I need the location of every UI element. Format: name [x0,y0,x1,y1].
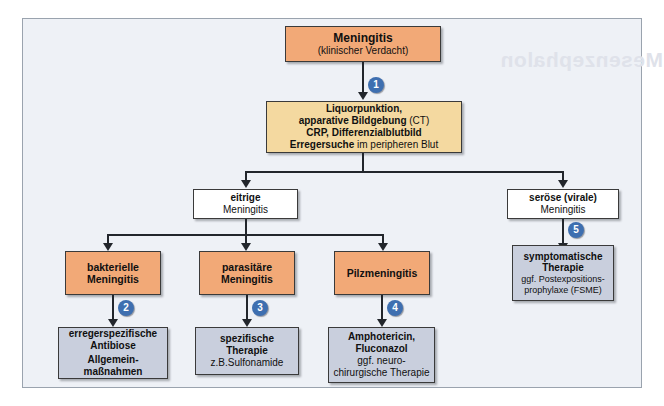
box-diagnostik-line-2: apparative Bildgebung (CT) [299,115,430,127]
connector-parasitaere-spezifische [246,295,248,321]
box-bakterielle-title: bakterielle [87,261,139,273]
arrowhead-eitrige [241,180,251,188]
box-eitrige-subtitle: Meningitis [223,204,268,216]
badge-4[interactable]: 4 [387,300,403,316]
box-parasitaere-subtitle: Meningitis [221,273,273,285]
badge-3[interactable]: 3 [252,300,268,316]
arrowhead-diagnostik [358,92,368,100]
box-bakterielle-subtitle: Meningitis [87,273,139,285]
box-erregerspezifische-antibiose[interactable]: erregerspezifische Antibiose Allgemein- … [58,327,168,379]
box-parasitaere-meningitis[interactable]: parasitäre Meningitis [199,251,295,295]
box-antibiose-title-3: Allgemein- [87,354,138,366]
box-symptomatische-sub-1: ggf. Postexpositions- [521,274,605,285]
arrowhead-antimykotika [377,319,387,327]
connector-eitrige-stem [245,219,247,234]
box-antimykotika-title-1: Amphotericin, [348,331,415,343]
box-diagnostik[interactable]: Liquorpunktion, apparative Bildgebung (C… [266,101,462,153]
diagram-frame: Mesenzephalon Meningitis (klinischer Ver… [22,18,642,388]
connector-meningitis-diagnostik [362,62,364,94]
box-eitrige-meningitis[interactable]: eitrige Meningitis [193,189,298,219]
box-antibiose-title-1: erregerspezifische [69,328,157,340]
box-spezifische-sub-1: z.B.Sulfonamide [211,357,284,369]
diagram-page: Mesenzephalon Meningitis (klinischer Ver… [0,0,664,406]
box-antimykotika-sub-2: chirurgische Therapie [334,367,430,379]
box-symptomatische-title-1: symptomatische [524,251,603,263]
box-symptomatische-sub-2: prophylaxe (FSME) [524,285,602,296]
box-seroese-title: seröse (virale) [529,192,597,204]
arrowhead-seroese [558,180,568,188]
box-eitrige-title: eitrige [230,192,260,204]
connector-bakterielle-antibiose [112,295,114,321]
box-symptomatische-title-2: Therapie [542,262,584,274]
box-pilz-title: Pilzmeningitis [347,267,418,279]
box-diagnostik-line-3: CRP, Differenzialblutbild [306,127,421,139]
box-seroese-subtitle: Meningitis [540,204,585,216]
connector-pilz-antimykotika [381,295,383,321]
box-parasitaere-title: parasitäre [222,261,272,273]
box-meningitis-title: Meningitis [333,31,392,45]
badge-2[interactable]: 2 [118,300,134,316]
arrowhead-bakterielle [103,243,113,251]
arrowhead-pilz [378,243,388,251]
connector-seroese-symptomatische [562,219,564,245]
box-antimykotika-sub-1: ggf. neuro- [357,355,405,367]
box-spezifische-title-1: spezifische [220,333,274,345]
box-spezifische-therapie[interactable]: spezifische Therapie z.B.Sulfonamide [195,327,299,375]
bleed-through-watermark: Mesenzephalon [453,43,663,77]
box-meningitis[interactable]: Meningitis (klinischer Verdacht) [285,26,441,62]
connector-split-bar-top [245,171,564,173]
box-diagnostik-line-4: Erregersuche im peripheren Blut [290,139,438,151]
box-antimykotika-title-2: Fluconazol [355,343,407,355]
box-meningitis-subtitle: (klinischer Verdacht) [318,45,409,57]
box-spezifische-title-2: Therapie [226,345,268,357]
box-seroese-meningitis[interactable]: seröse (virale) Meningitis [507,189,619,219]
badge-5[interactable]: 5 [568,222,584,238]
arrowhead-spezifische [242,319,252,327]
box-antimykotische-therapie[interactable]: Amphotericin, Fluconazol ggf. neuro- chi… [328,327,435,383]
arrowhead-parasitaere [241,243,251,251]
box-bakterielle-meningitis[interactable]: bakterielle Meningitis [65,251,161,295]
box-antibiose-title-4: maßnahmen [84,366,143,378]
connector-diagnostik-stem [362,153,364,171]
box-antibiose-title-2: Antibiose [90,340,136,352]
arrowhead-antibiose [108,319,118,327]
badge-1[interactable]: 1 [368,77,384,93]
box-diagnostik-line-1: Liquorpunktion, [326,103,402,115]
box-pilzmeningitis[interactable]: Pilzmeningitis [334,251,430,295]
box-symptomatische-therapie[interactable]: symptomatische Therapie ggf. Postexposit… [512,245,614,301]
